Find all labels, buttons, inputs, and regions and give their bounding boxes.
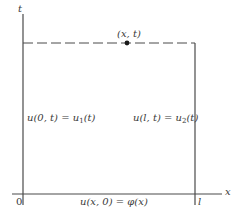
left-bc-lhs: u(0, t) = u — [27, 112, 79, 123]
point-marker — [125, 41, 130, 46]
t-axis-label: t — [18, 4, 22, 14]
right-bc-rhs: (t) — [186, 112, 198, 123]
right-bc-lhs: u(l, t) = u — [133, 112, 182, 123]
origin-label: 0 — [16, 197, 22, 207]
left-bc-rhs: (t) — [84, 112, 96, 123]
point-label: (x, t) — [117, 29, 141, 39]
length-label: l — [198, 197, 201, 207]
left-boundary-condition: u(0, t) = u1(t) — [27, 113, 95, 125]
right-boundary-condition: u(l, t) = u2(t) — [133, 113, 198, 125]
initial-condition: u(x, 0) = φ(x) — [80, 197, 148, 207]
x-axis-label: x — [225, 187, 231, 197]
